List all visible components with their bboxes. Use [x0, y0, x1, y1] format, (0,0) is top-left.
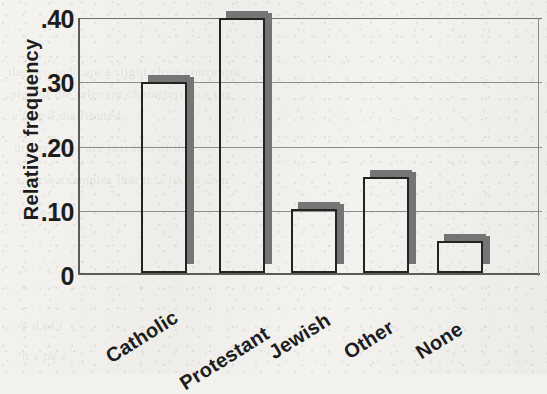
bar-right-face	[265, 13, 272, 264]
bar-right-face	[337, 204, 344, 264]
x-tick-label-other: Other	[340, 316, 398, 364]
bar-top-face	[148, 75, 190, 82]
plot-area	[78, 18, 540, 275]
bar-top-face	[370, 170, 412, 177]
bar-top-face	[298, 202, 340, 209]
y-tick-label: 0	[12, 262, 74, 291]
y-tick-label: .20	[12, 134, 74, 163]
bar-protestant	[219, 18, 265, 273]
x-tick-label-none: None	[412, 318, 467, 364]
bar-jewish	[291, 209, 337, 273]
y-tick-label: .40	[12, 5, 74, 34]
x-tick-label-jewish: Jewish	[265, 309, 335, 364]
bar-top-face	[444, 234, 486, 241]
bar-other	[363, 177, 409, 273]
x-tick-label-catholic: Catholic	[102, 306, 182, 368]
y-tick-label: .10	[12, 198, 74, 227]
y-axis-tick-labels: .40 .30 .20 .10 0	[8, 0, 74, 374]
bar-right-face	[483, 236, 490, 264]
y-tick-label: .30	[12, 69, 74, 98]
bar-catholic	[141, 82, 187, 273]
gridline-040	[80, 18, 542, 19]
bar-top-face	[226, 11, 268, 18]
x-tick-label-protestant: Protestant	[176, 322, 274, 394]
bar-right-face	[409, 172, 416, 264]
bar-right-face	[187, 77, 194, 264]
bar-none	[437, 241, 483, 273]
plot-right-frame	[538, 18, 539, 276]
